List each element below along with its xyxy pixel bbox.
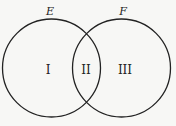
region-label-II: II bbox=[81, 63, 91, 77]
set-label-E: E bbox=[45, 5, 54, 18]
venn-diagram: E F I II III bbox=[0, 0, 176, 126]
set-label-F: F bbox=[118, 5, 127, 18]
region-label-I: I bbox=[46, 63, 51, 77]
region-label-III: III bbox=[118, 63, 132, 77]
